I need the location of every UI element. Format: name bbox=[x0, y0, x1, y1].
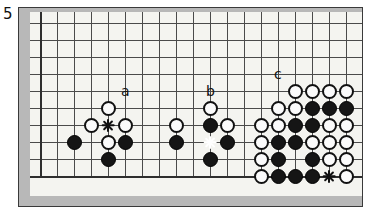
white-stone[interactable] bbox=[203, 101, 218, 116]
grid-line-vertical bbox=[176, 12, 177, 176]
white-stone[interactable] bbox=[254, 169, 269, 184]
white-stone[interactable] bbox=[339, 135, 354, 150]
black-stone[interactable] bbox=[322, 101, 337, 116]
black-stone[interactable] bbox=[305, 101, 320, 116]
white-stone[interactable] bbox=[288, 84, 303, 99]
white-stone[interactable] bbox=[305, 135, 320, 150]
grid-line-vertical bbox=[91, 12, 92, 176]
grid-line-vertical bbox=[40, 12, 42, 176]
white-stone[interactable] bbox=[339, 152, 354, 167]
white-stone[interactable] bbox=[305, 84, 320, 99]
black-stone[interactable] bbox=[305, 169, 320, 184]
black-stone[interactable] bbox=[169, 135, 184, 150]
black-stone[interactable] bbox=[271, 169, 286, 184]
white-stone[interactable] bbox=[254, 135, 269, 150]
white-stone[interactable] bbox=[220, 118, 235, 133]
go-diagram-figure: 5 abc bbox=[0, 0, 367, 213]
black-stone[interactable] bbox=[271, 135, 286, 150]
black-stone[interactable] bbox=[203, 118, 218, 133]
black-stone[interactable] bbox=[305, 118, 320, 133]
black-stone[interactable] bbox=[220, 135, 235, 150]
black-stone[interactable] bbox=[305, 152, 320, 167]
white-stone[interactable] bbox=[101, 101, 116, 116]
black-stone[interactable] bbox=[339, 101, 354, 116]
white-stone[interactable] bbox=[169, 118, 184, 133]
white-stone[interactable] bbox=[288, 101, 303, 116]
white-stone[interactable] bbox=[339, 169, 354, 184]
white-stone[interactable] bbox=[339, 118, 354, 133]
diagram-number-label: 5 bbox=[3, 7, 13, 22]
white-stone[interactable] bbox=[271, 118, 286, 133]
letter-label-b: b bbox=[206, 84, 215, 98]
letter-label-a: a bbox=[121, 84, 130, 98]
black-stone[interactable] bbox=[271, 152, 286, 167]
grid-line-vertical bbox=[74, 12, 75, 176]
black-stone[interactable] bbox=[288, 118, 303, 133]
grid-line-vertical bbox=[227, 12, 228, 176]
white-stone[interactable] bbox=[339, 84, 354, 99]
white-stone[interactable] bbox=[84, 118, 99, 133]
black-stone[interactable] bbox=[203, 152, 218, 167]
grid-line-vertical bbox=[159, 12, 160, 176]
black-stone[interactable] bbox=[118, 135, 133, 150]
go-board-frame: abc bbox=[18, 7, 363, 207]
white-stone[interactable] bbox=[254, 118, 269, 133]
white-stone[interactable] bbox=[322, 84, 337, 99]
white-stone[interactable] bbox=[322, 118, 337, 133]
grid-line-vertical bbox=[142, 12, 143, 176]
black-stone[interactable] bbox=[288, 169, 303, 184]
white-stone[interactable] bbox=[118, 118, 133, 133]
white-stone[interactable] bbox=[254, 152, 269, 167]
grid-line-vertical bbox=[244, 12, 245, 176]
white-stone[interactable] bbox=[271, 101, 286, 116]
black-stone[interactable] bbox=[101, 152, 116, 167]
white-stone[interactable] bbox=[101, 135, 116, 150]
white-stone[interactable] bbox=[322, 135, 337, 150]
grid-line-vertical bbox=[193, 12, 194, 176]
letter-label-c: c bbox=[274, 67, 282, 81]
black-stone[interactable] bbox=[288, 135, 303, 150]
white-stone[interactable] bbox=[322, 152, 337, 167]
black-stone[interactable] bbox=[67, 135, 82, 150]
go-board-surface[interactable]: abc bbox=[30, 12, 362, 196]
grid-line-vertical bbox=[57, 12, 58, 176]
